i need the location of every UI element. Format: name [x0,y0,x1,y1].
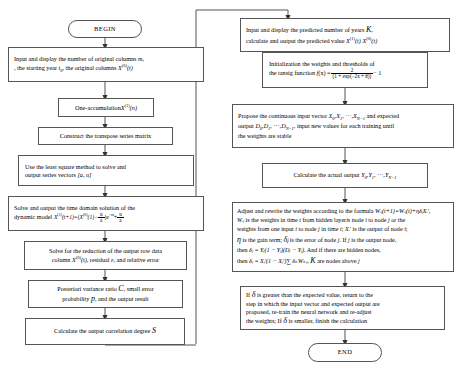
actual-output-box: Calculate the actual output Y0,Y1, ···,Y… [262,163,428,188]
residual-line-1: Solve for the reduction of the output ro… [28,247,183,255]
symbol-S: S [152,326,156,335]
symbol-delta-2: δ [283,316,287,325]
input-line-1: Input and display the number of original… [14,55,200,63]
initialize-weights-box: Initialization the weights and threshold… [262,52,428,88]
least-square-line-1: Use the least square method to solve and [25,163,190,171]
init-line-1: Initialization the weights and threshold… [269,60,424,68]
check-line-4: the weights; If δ is smaller, finish the… [246,316,441,326]
convergence-check-box: If δ is greater than the expected value,… [240,286,445,330]
var-m: m [138,55,142,62]
correlation-label: Calculate the output correlation degree [54,327,150,334]
actual-output-label: Calculate the actual output [293,171,359,178]
init-line-2: the tansig function f(x) =2(1 + exp(−2x … [269,68,424,80]
vector-a-u: [a, u] [77,171,91,178]
adjust-weights-box: Adjust and rewrite the weights according… [232,202,454,272]
least-square-line-2: output series vectors [a, u] [25,171,190,179]
adjust-line-2: Wᵢⱼ is the weights in time t from hidden… [237,216,450,225]
transpose-matrix-box: Construct the transpose series matrix [38,127,173,145]
residual-line-2: column X(0)(t), residual ε, and relative… [28,255,183,264]
input-original-columns-box: Input and display the number of original… [8,47,204,82]
correlation-degree-box: Calculate the output correlation degree … [25,318,185,345]
vector-line-2: output D0,D1, ···,DN−1, input new values… [238,122,450,132]
tansig-fraction: 2(1 + exp(−2x + θ)) [331,68,374,80]
predicted-years-box: Input and display the predicted number o… [240,18,450,52]
dynamic-equation: X(1)(t+1)=(X(0)(1)−ua)e−at+ua [54,214,124,220]
begin-label: BEGIN [69,24,141,34]
adjust-line-6: then δⱼ = Xⱼ′(1 − Xⱼ′)∑ δₖWₖⱼ, K are nod… [237,255,450,267]
predicted-line-1: Input and display the predicted number o… [246,25,446,35]
residual-relative-error-box: Solve for the reduction of the output ro… [24,241,187,270]
delta-output-formula: δⱼ = Yⱼ(1 − Yⱼ)(Dⱼ − Yⱼ) [249,247,304,253]
posteriori-variance-box: Posteriori variance ratio C, small error… [28,280,183,308]
time-domain-solution-box: Solve and output the time domain solutio… [8,196,204,231]
transpose-label: Construct the transpose series matrix [39,131,172,141]
adjust-line-4: η is the gain term; δⱼ is the error of n… [237,234,450,246]
flowchart-diagram: BEGIN Input and display the number of or… [0,0,462,376]
predicted-line-2: calculate and output the predicted value… [246,36,446,45]
check-line-3: proposed, re-train the neural network an… [246,308,441,316]
frac-u-a-2: ua [117,212,124,224]
dynamic-line-2: dynamic model X(1)(t+1)=(X(0)(1)−ua)e−at… [14,212,200,224]
frac-u-a-1: ua [98,212,105,224]
posteriori-line-2: probability p, and the output result [32,294,179,304]
input-vector-box: Propose the continuous input vector X0,X… [232,104,454,148]
end-terminator: END [308,343,382,362]
one-accumulation-label: One-accumulation [75,104,121,111]
var-X0-arg: (t) [127,64,133,71]
weight-update-formula: Wᵢⱼ(t+1)=Wᵢⱼ(t)+ηδⱼXᵢ′ [375,208,429,214]
adjust-line-3: weights from one input i to node j in ti… [237,225,450,234]
check-line-1: If δ is greater than the expected value,… [246,290,441,300]
adjust-line-5: then δⱼ = Yⱼ(1 − Yⱼ)(Dⱼ − Yⱼ). And if th… [237,246,450,255]
least-square-box: Use the least square method to solve and… [18,155,194,186]
begin-terminator: BEGIN [68,20,142,38]
vector-line-3: the weights are stable [238,132,450,140]
delta-hidden-formula: δⱼ = Xⱼ′(1 − Xⱼ′)∑ δₖWₖⱼ [249,258,307,264]
symbol-delta: δ [252,290,256,299]
dynamic-line-1: Solve and output the time domain solutio… [14,204,200,212]
vector-line-1: Propose the continuous input vector X0,X… [238,112,450,122]
one-accumulation-box: One-accumulationX(1)(n) [58,98,154,117]
input-line-2: , the starting year t0, the original col… [14,63,200,74]
check-line-2: step in which the input vector and expec… [246,300,441,308]
end-label: END [309,347,381,357]
posteriori-line-1: Posteriori variance ratio C, small error [32,284,179,294]
adjust-line-1: Adjust and rewrite the weights according… [237,207,450,216]
